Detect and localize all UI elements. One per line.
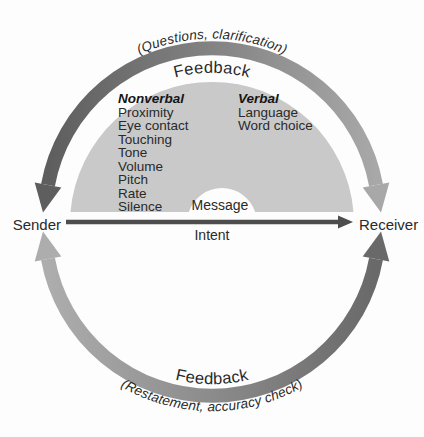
top-feedback-label: Feedback <box>172 58 253 81</box>
bottom-arc-arrowhead-receiver-icon <box>363 231 390 261</box>
sender-label: Sender <box>13 216 61 233</box>
message-label: Message <box>192 197 249 213</box>
verbal-item: Word choice <box>238 118 313 133</box>
top-arc-arrowhead-sender-icon <box>35 183 62 213</box>
top-arc-arrowhead-receiver-icon <box>363 183 390 213</box>
receiver-label: Receiver <box>359 216 418 233</box>
bottom-feedback-label: Feedback <box>174 365 250 387</box>
message-dome <box>71 82 354 212</box>
nonverbal-item: Silence <box>118 199 162 214</box>
intent-label: Intent <box>194 227 229 243</box>
communication-process-diagram: (Questions, clarification) Feedback Nonv… <box>0 0 424 437</box>
bottom-arc-arrowhead-sender-icon <box>35 231 62 261</box>
message-arrowhead-icon <box>338 216 353 229</box>
